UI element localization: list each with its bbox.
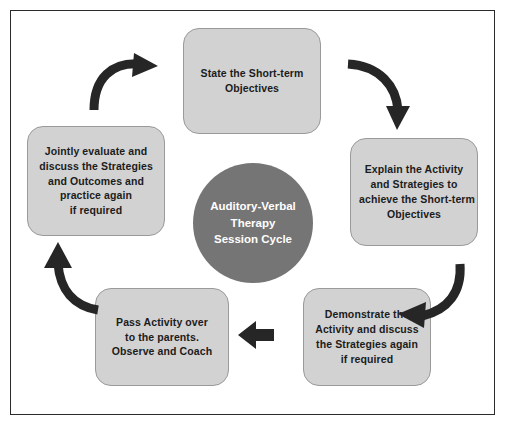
- text-line: Jointly evaluate and: [36, 144, 156, 159]
- text-line: and Strategies to: [359, 177, 469, 192]
- cycle-center-circle: Auditory-Verbal Therapy Session Cycle: [193, 163, 313, 283]
- text-line: Activity and discuss: [312, 322, 422, 337]
- cycle-node-pass-activity-label: Pass Activity over to the parents. Obser…: [104, 315, 220, 360]
- cycle-node-jointly-evaluate-label: Jointly evaluate and discuss the Strateg…: [36, 144, 156, 219]
- cycle-node-jointly-evaluate[interactable]: Jointly evaluate and discuss the Strateg…: [27, 126, 165, 236]
- text-line: and Outcomes and: [36, 174, 156, 189]
- text-line: Pass Activity over: [104, 315, 220, 330]
- text-line: Therapy: [210, 215, 296, 232]
- text-line: Objectives: [359, 207, 469, 222]
- cycle-node-state-label: State the Short-term Objectives: [192, 66, 312, 96]
- text-line: Demonstrate the: [312, 307, 422, 322]
- cycle-center-label: Auditory-Verbal Therapy Session Cycle: [210, 198, 296, 248]
- diagram-canvas: State the Short-term Objectives Explain …: [0, 0, 507, 427]
- cycle-node-demonstrate-label: Demonstrate the Activity and discuss the…: [312, 307, 422, 367]
- cycle-node-demonstrate[interactable]: Demonstrate the Activity and discuss the…: [303, 288, 431, 386]
- text-line: Auditory-Verbal: [210, 198, 296, 215]
- text-line: to the parents.: [104, 330, 220, 345]
- text-line: if required: [36, 203, 156, 218]
- text-line: Session Cycle: [210, 231, 296, 248]
- text-line: practice again: [36, 188, 156, 203]
- cycle-node-explain-label: Explain the Activity and Strategies to a…: [359, 162, 469, 222]
- cycle-node-state[interactable]: State the Short-term Objectives: [183, 28, 321, 134]
- text-line: Objectives: [192, 81, 312, 96]
- text-line: the Strategies again: [312, 337, 422, 352]
- text-line: if required: [312, 352, 422, 367]
- cycle-node-pass-activity[interactable]: Pass Activity over to the parents. Obser…: [95, 288, 229, 386]
- cycle-node-explain[interactable]: Explain the Activity and Strategies to a…: [350, 138, 478, 246]
- text-line: discuss the Strategies: [36, 159, 156, 174]
- text-line: Explain the Activity: [359, 162, 469, 177]
- text-line: Observe and Coach: [104, 344, 220, 359]
- text-line: State the Short-term: [192, 66, 312, 81]
- text-line: achieve the Short-term: [359, 192, 469, 207]
